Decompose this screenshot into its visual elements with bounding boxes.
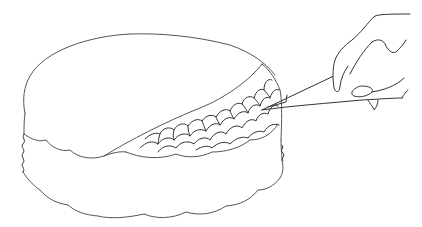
scale-pattern-reveal bbox=[126, 64, 282, 158]
knife bbox=[262, 74, 402, 110]
cake-bottom-layer bbox=[22, 134, 284, 218]
hand bbox=[333, 14, 410, 110]
cake-top-layer bbox=[24, 34, 275, 158]
cake-cutting-illustration bbox=[0, 0, 422, 227]
illustration-canvas bbox=[0, 0, 422, 227]
